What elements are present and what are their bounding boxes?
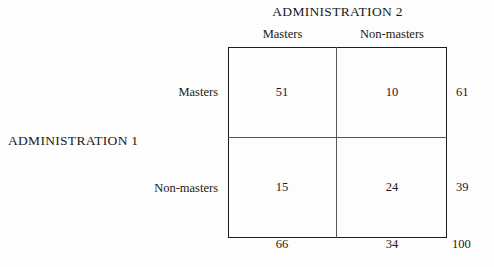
cell-masters-masters: 51 (228, 85, 336, 100)
contingency-table-figure: ADMINISTRATION 2 ADMINISTRATION 1 Master… (0, 0, 494, 267)
table-outer-border (228, 47, 447, 238)
cell-masters-nonmasters: 10 (337, 85, 447, 100)
grand-total: 100 (452, 237, 494, 252)
column-total-non-masters: 34 (337, 237, 447, 252)
row-total-non-masters: 39 (456, 180, 494, 195)
column-header-non-masters: Non-masters (337, 27, 447, 42)
table-vertical-divider (336, 47, 337, 238)
row-total-masters: 61 (456, 85, 494, 100)
row-header-masters: Masters (58, 85, 218, 100)
row-variable-title: ADMINISTRATION 1 (8, 133, 138, 149)
column-total-masters: 66 (228, 237, 336, 252)
column-header-masters: Masters (228, 27, 337, 42)
cell-nonmasters-masters: 15 (228, 180, 336, 195)
column-variable-title: ADMINISTRATION 2 (228, 4, 447, 20)
table-horizontal-divider (228, 137, 447, 138)
row-header-non-masters: Non-masters (58, 181, 218, 196)
cell-nonmasters-nonmasters: 24 (337, 180, 447, 195)
